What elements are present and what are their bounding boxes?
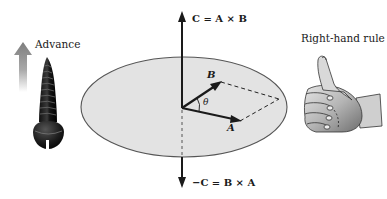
diagram-graphics bbox=[0, 0, 387, 199]
right-hand-rule-label: Right-hand rule bbox=[301, 33, 385, 44]
theta-label: θ bbox=[203, 98, 208, 107]
vector-b-label: B bbox=[207, 70, 215, 80]
right-hand-icon bbox=[304, 56, 382, 132]
screw-icon bbox=[33, 57, 64, 150]
neg-c-equation-label: −C = B × A bbox=[192, 178, 255, 188]
vector-a-label: A bbox=[227, 123, 235, 133]
advance-label: Advance bbox=[35, 39, 80, 50]
c-equation-label: C = A × B bbox=[192, 14, 247, 24]
cross-product-diagram: Advance Right-hand rule C = A × B −C = B… bbox=[0, 0, 387, 199]
advance-arrow-icon bbox=[14, 42, 32, 92]
vector-neg-c-axis bbox=[178, 157, 186, 188]
